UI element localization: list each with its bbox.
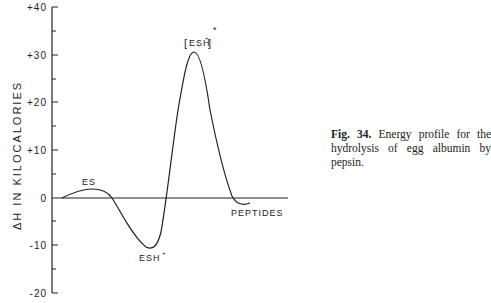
bracket-right: ] (208, 37, 212, 49)
energy-curve (62, 52, 250, 248)
tick-label: 0 (40, 193, 47, 204)
label-esh-min-plus: + (162, 250, 167, 256)
y-ticks (52, 7, 58, 293)
tick-label: +40 (27, 2, 47, 13)
figure-number: Fig. 34. (331, 128, 371, 140)
tick-label: +10 (27, 145, 47, 156)
figure-caption: Fig. 34. Energy profile for the hydrolys… (331, 127, 491, 169)
label-esh-min: ESH (139, 253, 161, 263)
tick-label: +20 (27, 97, 47, 108)
tick-label: -20 (30, 288, 47, 299)
label-transition-star: * (213, 25, 218, 35)
bracket-left: [ (184, 37, 188, 49)
label-es: ES (82, 177, 96, 187)
y-axis-title: ΔH IN KILOCALORIES (11, 81, 23, 230)
tick-label: +30 (27, 50, 47, 61)
label-peptides: PEPTIDES (231, 208, 284, 218)
tick-label: -10 (30, 240, 47, 251)
